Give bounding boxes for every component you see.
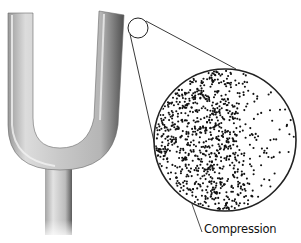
- compression-label: Compression: [204, 222, 276, 236]
- fork-prongs: [8, 11, 124, 170]
- fork-stem: [44, 160, 74, 240]
- tuning-fork-diagram: Compression: [0, 0, 301, 243]
- magnify-source-circle: [128, 18, 148, 38]
- label-pointer-line: [192, 204, 202, 232]
- diagram-canvas: [0, 0, 301, 243]
- tangent-line-upper: [146, 21, 236, 69]
- tangent-line-lower: [130, 34, 155, 146]
